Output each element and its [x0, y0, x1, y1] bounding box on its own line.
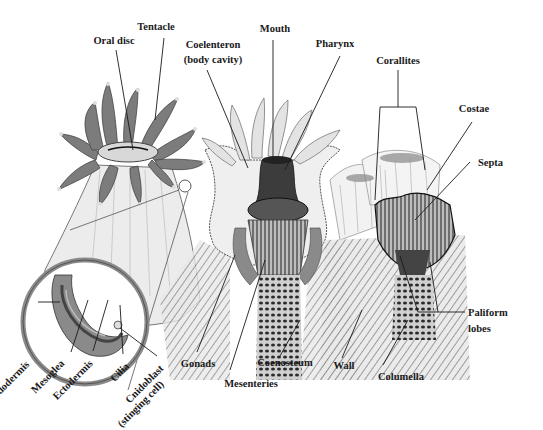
- label-paliform: Paliform: [468, 306, 508, 319]
- label-coenosteum: Coenosteum: [257, 356, 312, 369]
- label-coelenteron-subtitle: (body cavity): [184, 53, 243, 66]
- label-coelenteron: Coelenteron: [186, 38, 241, 51]
- label-corallites: Corallites: [376, 54, 420, 67]
- label-wall: Wall: [333, 359, 354, 372]
- label-costae: Costae: [459, 102, 489, 115]
- label-paliform-lobes: lobes: [468, 322, 491, 335]
- label-gonads: Gonads: [181, 357, 215, 370]
- label-tentacle: Tentacle: [137, 20, 175, 33]
- label-columella: Columella: [378, 370, 424, 383]
- skeleton: [320, 150, 470, 380]
- label-septa: Septa: [478, 156, 503, 169]
- label-oral-disc: Oral disc: [93, 34, 134, 47]
- label-mesenteries: Mesenteries: [224, 377, 278, 390]
- label-pharynx: Pharynx: [316, 37, 355, 50]
- label-mouth: Mouth: [260, 22, 290, 35]
